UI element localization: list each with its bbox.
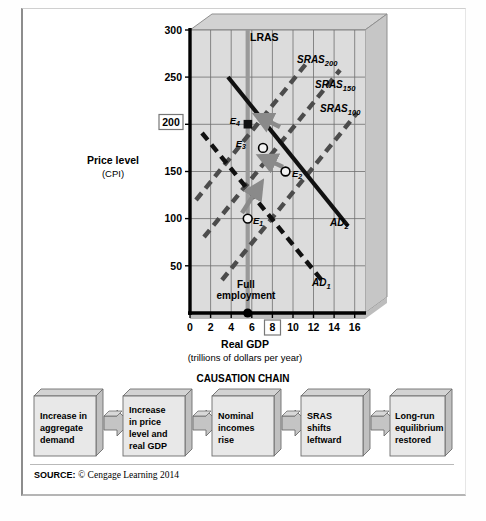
full-employment-label-line2: employment xyxy=(217,290,277,301)
x-axis-title: Real GDP xyxy=(221,338,269,350)
source-divider xyxy=(30,464,454,465)
chain-box-1-line-3: demand xyxy=(40,435,75,445)
svg-text:100: 100 xyxy=(164,212,182,224)
point-e1 xyxy=(243,214,252,223)
point-e2 xyxy=(281,167,290,176)
svg-text:14: 14 xyxy=(328,321,340,333)
point-e3 xyxy=(259,144,268,153)
chain-box-1: Increase in aggregate demand xyxy=(34,389,103,456)
chart-container: E1 E2 E3 E4 SRAS200 SRAS150 SRAS100 AD2 … xyxy=(0,0,486,521)
chain-box-4-line-3: leftward xyxy=(307,435,342,445)
chain-box-4: SRAS shifts leftward xyxy=(301,389,370,456)
svg-text:50: 50 xyxy=(170,260,182,272)
svg-text:16: 16 xyxy=(349,321,361,333)
chain-box-3-line-3: rise xyxy=(218,435,234,445)
full-employment-label-line1: Full xyxy=(237,279,255,290)
lras-label: LRAS xyxy=(250,31,279,43)
svg-text:2: 2 xyxy=(208,321,214,333)
chain-box-1-line-2: aggregate xyxy=(40,423,83,433)
source-line: SOURCE: © Cengage Learning 2014 xyxy=(34,470,179,480)
chain-box-5-line-1: Long-run xyxy=(395,411,435,421)
svg-text:150: 150 xyxy=(164,165,182,177)
y-axis-subtitle: (CPI) xyxy=(102,168,124,179)
causation-chain-title: CAUSATION CHAIN xyxy=(196,373,289,384)
chain-box-3-line-1: Nominal xyxy=(218,411,254,421)
chain-box-1-line-1: Increase in xyxy=(40,411,87,421)
chain-box-2-line-2: in price xyxy=(129,417,161,427)
point-e4 xyxy=(244,120,253,129)
figure-svg: E1 E2 E3 E4 SRAS200 SRAS150 SRAS100 AD2 … xyxy=(0,0,486,521)
causation-chain: Increase in aggregate demand Increase in… xyxy=(34,389,452,456)
chain-box-5-line-2: equilibrium xyxy=(395,423,444,433)
chain-box-4-line-1: SRAS xyxy=(307,411,332,421)
svg-text:10: 10 xyxy=(287,321,299,333)
svg-text:4: 4 xyxy=(228,321,234,333)
y-tick-highlight-label: 200 xyxy=(162,116,180,128)
svg-text:300: 300 xyxy=(164,24,182,36)
chain-box-2: Increase in price level and real GDP xyxy=(123,389,192,456)
chain-box-2-line-4: real GDP xyxy=(129,441,167,451)
svg-text:250: 250 xyxy=(164,71,182,83)
x-tick-highlight-label: 8 xyxy=(269,321,275,333)
svg-text:12: 12 xyxy=(308,321,320,333)
svg-text:6: 6 xyxy=(249,321,255,333)
chain-box-3-line-2: incomes xyxy=(218,423,255,433)
chain-box-5-line-3: restored xyxy=(395,435,431,445)
chain-box-2-line-1: Increase xyxy=(129,405,166,415)
chain-box-5: Long-run equilibrium restored xyxy=(390,389,452,456)
y-axis-title: Price level xyxy=(87,154,139,166)
source-label: SOURCE: xyxy=(34,470,76,480)
x-axis-subtitle: (trillions of dollars per year) xyxy=(188,352,303,363)
source-text: © Cengage Learning 2014 xyxy=(78,470,179,480)
chain-box-3: Nominal incomes rise xyxy=(212,389,281,456)
svg-text:0: 0 xyxy=(187,321,193,333)
y-tick-labels: 50 100 150 250 300 xyxy=(164,24,182,272)
chain-box-4-line-2: shifts xyxy=(307,423,331,433)
figure-page: E1 E2 E3 E4 SRAS200 SRAS150 SRAS100 AD2 … xyxy=(0,0,486,521)
chain-box-2-line-3: level and xyxy=(129,429,168,439)
